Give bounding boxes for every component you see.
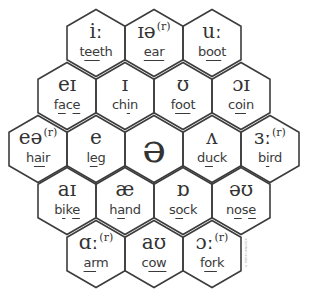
phoneme-symbol: ɪ bbox=[96, 73, 154, 95]
underlined-letters: a bbox=[58, 97, 66, 112]
phoneme-symbol: eɪ bbox=[38, 73, 96, 95]
underlined-letters: e bbox=[73, 97, 81, 112]
phoneme-symbol-text: uː bbox=[202, 19, 222, 43]
phoneme-symbol: æ bbox=[96, 178, 154, 200]
word-letters: n bbox=[246, 97, 254, 112]
phoneme-symbol: eə(r) bbox=[9, 126, 67, 152]
copyright-credit: © MARK HANCOCK bbox=[244, 238, 248, 268]
phoneme-symbol-text: aʊ bbox=[142, 230, 166, 254]
word-letters: ck bbox=[213, 150, 227, 165]
phoneme-symbol-text: ɪ bbox=[122, 72, 128, 96]
phoneme-symbol-text: əʊ bbox=[229, 177, 253, 201]
example-word: teeth bbox=[67, 44, 125, 60]
word-letters: t bbox=[190, 97, 195, 112]
phoneme-symbol: əʊ bbox=[212, 178, 270, 200]
example-word: duck bbox=[183, 150, 241, 166]
underlined-letters: or bbox=[204, 255, 217, 270]
word-letters: g bbox=[98, 150, 106, 165]
phoneme-symbol: ɒ bbox=[154, 178, 212, 200]
phoneme-symbol: ɜː(r) bbox=[241, 126, 299, 152]
rhotic-marker: (r) bbox=[157, 20, 171, 33]
phoneme-symbol-text: ɪə bbox=[137, 19, 155, 43]
underlined-letters: e bbox=[248, 202, 256, 217]
word-letters: rd bbox=[269, 150, 282, 165]
phoneme-symbol-text: ɜː bbox=[254, 125, 271, 149]
example-word: nose bbox=[212, 202, 270, 218]
example-word: coin bbox=[212, 97, 270, 113]
example-word: cow bbox=[125, 255, 183, 271]
example-word: bird bbox=[241, 150, 299, 166]
underlined-letters: ear bbox=[144, 44, 164, 59]
underlined-letters: ee bbox=[84, 44, 99, 59]
word-letters: b bbox=[198, 44, 206, 59]
hexagon-cell-arm: ɑː(r)arm bbox=[67, 221, 125, 288]
phoneme-symbol: ə bbox=[125, 128, 183, 168]
example-word: arm bbox=[67, 255, 125, 271]
phoneme-symbol-text: ʊ bbox=[177, 72, 189, 96]
word-letters: ck bbox=[183, 202, 197, 217]
phoneme-symbol-text: ɑː bbox=[79, 230, 99, 254]
word-letters: h bbox=[26, 150, 34, 165]
phoneme-symbol-text: ɔɪ bbox=[232, 72, 250, 96]
phoneme-symbol: uː bbox=[183, 20, 241, 42]
word-letters: c bbox=[228, 97, 235, 112]
word-letters: r bbox=[45, 150, 50, 165]
underlined-letters: a bbox=[117, 202, 125, 217]
phoneme-symbol: aɪ bbox=[38, 178, 96, 200]
word-letters: d bbox=[197, 150, 205, 165]
underlined-letters: u bbox=[205, 150, 213, 165]
hexagon-cell-cow: aʊcow bbox=[125, 221, 183, 288]
vowel-hexagon-chart: iːteethɪə(r)earuːbooteɪfaceɪchinʊfootɔɪc… bbox=[0, 0, 309, 295]
phoneme-symbol-text: ʌ bbox=[206, 125, 217, 149]
underlined-letters: ai bbox=[34, 150, 45, 165]
phoneme-symbol-text: eə bbox=[19, 125, 43, 149]
word-letters: b bbox=[54, 202, 62, 217]
underlined-letters: e bbox=[72, 202, 80, 217]
underlined-letters: e bbox=[90, 150, 98, 165]
phoneme-symbol-text: ə bbox=[142, 125, 166, 171]
example-word: fork bbox=[183, 255, 241, 271]
phoneme-symbol-text: ɔː bbox=[196, 230, 214, 254]
phoneme-symbol-text: ɒ bbox=[177, 177, 190, 201]
underlined-letters: o bbox=[175, 202, 183, 217]
word-letters: ch bbox=[112, 97, 127, 112]
word-letters: n bbox=[130, 97, 138, 112]
phoneme-symbol: ɪə(r) bbox=[125, 20, 183, 46]
word-letters: c bbox=[66, 97, 73, 112]
phoneme-symbol: ʌ bbox=[183, 126, 241, 148]
underlined-letters: oo bbox=[175, 97, 190, 112]
phoneme-symbol-text: e bbox=[90, 125, 102, 149]
example-word: sock bbox=[154, 202, 212, 218]
phoneme-symbol: ʊ bbox=[154, 73, 212, 95]
underlined-letters: ar bbox=[84, 255, 96, 270]
phoneme-symbol-text: iː bbox=[89, 19, 102, 43]
underlined-letters: oi bbox=[235, 97, 246, 112]
phoneme-symbol-text: eɪ bbox=[58, 72, 76, 96]
example-word: foot bbox=[154, 97, 212, 113]
hexagon-cell-fork: ɔː(r)fork bbox=[183, 221, 241, 288]
phoneme-symbol: ɔː(r) bbox=[183, 231, 241, 257]
phoneme-symbol: ɑː(r) bbox=[67, 231, 125, 257]
word-letters: m bbox=[96, 255, 108, 270]
phoneme-symbol: ɔɪ bbox=[212, 73, 270, 95]
rhotic-marker: (r) bbox=[272, 126, 286, 139]
phoneme-symbol-text: aɪ bbox=[58, 177, 76, 201]
example-word: bike bbox=[38, 202, 96, 218]
phoneme-symbol: aʊ bbox=[125, 231, 183, 253]
example-word: ear bbox=[125, 44, 183, 60]
underlined-letters: oo bbox=[206, 44, 221, 59]
word-letters: nd bbox=[125, 202, 141, 217]
word-letters: t bbox=[221, 44, 226, 59]
example-word: face bbox=[38, 97, 96, 113]
underlined-letters: o bbox=[234, 202, 242, 217]
underlined-letters: ow bbox=[148, 255, 166, 270]
word-letters: n bbox=[226, 202, 234, 217]
word-letters: h bbox=[109, 202, 117, 217]
rhotic-marker: (r) bbox=[43, 126, 57, 139]
word-letters: k bbox=[217, 255, 224, 270]
word-letters: b bbox=[258, 150, 266, 165]
example-word: hair bbox=[9, 150, 67, 166]
example-word: hand bbox=[96, 202, 154, 218]
example-word: leg bbox=[67, 150, 125, 166]
rhotic-marker: (r) bbox=[215, 231, 229, 244]
